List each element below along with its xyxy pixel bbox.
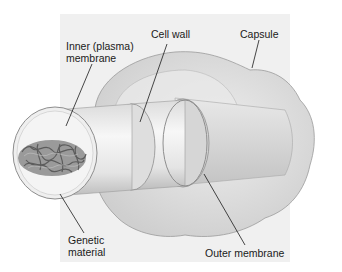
genetic-material-shape bbox=[18, 140, 86, 176]
label-inner-membrane-line2: membrane bbox=[66, 52, 134, 64]
label-genetic-material-line2: material bbox=[68, 246, 105, 258]
label-capsule: Capsule bbox=[240, 28, 279, 40]
label-outer-membrane: Outer membrane bbox=[205, 247, 284, 259]
label-genetic-material-line1: Genetic bbox=[68, 234, 105, 246]
label-genetic-material: Genetic material bbox=[68, 234, 105, 258]
label-inner-membrane-line1: Inner (plasma) bbox=[66, 40, 134, 52]
label-inner-membrane: Inner (plasma) membrane bbox=[66, 40, 134, 64]
bacterium-illustration bbox=[0, 0, 342, 272]
label-cell-wall: Cell wall bbox=[151, 28, 190, 40]
